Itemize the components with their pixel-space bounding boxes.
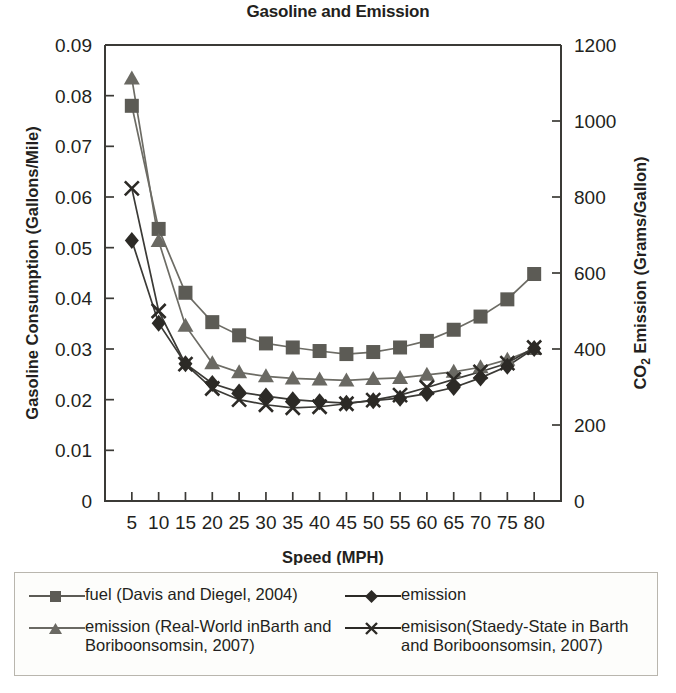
svg-text:600: 600 <box>574 263 606 284</box>
triangle-marker-icon <box>29 618 85 638</box>
svg-text:0.03: 0.03 <box>55 339 92 360</box>
svg-text:0.02: 0.02 <box>55 390 92 411</box>
legend-label-emission: emission <box>401 585 466 604</box>
svg-text:400: 400 <box>574 339 606 360</box>
series-line-1 <box>132 78 534 380</box>
data-series-1 <box>132 78 534 380</box>
square-data-marker <box>259 336 273 350</box>
svg-text:200: 200 <box>574 415 606 436</box>
square-marker-icon <box>29 586 85 606</box>
svg-text:0.01: 0.01 <box>55 440 92 461</box>
svg-text:45: 45 <box>336 512 357 533</box>
square-data-marker <box>205 315 219 329</box>
diamond-data-marker <box>393 390 407 407</box>
legend-label-fuel: fuel (Davis and Diegel, 2004) <box>85 585 298 604</box>
svg-text:0.04: 0.04 <box>55 288 92 309</box>
svg-text:0.06: 0.06 <box>55 187 92 208</box>
legend-item-emisison-steady-state: emisison(Staedy-State in Barth and Borib… <box>345 617 651 655</box>
square-data-marker <box>339 347 353 361</box>
svg-text:0: 0 <box>81 491 92 512</box>
square-data-marker <box>474 310 488 324</box>
triangle-data-marker <box>124 70 140 84</box>
plot-svg: 510152025303540455055606570758000.010.02… <box>0 0 676 565</box>
square-data-marker <box>500 292 514 306</box>
square-data-marker <box>125 99 139 113</box>
svg-text:0.09: 0.09 <box>55 35 92 56</box>
svg-text:80: 80 <box>524 512 545 533</box>
svg-text:0.05: 0.05 <box>55 238 92 259</box>
triangle-data-marker <box>231 364 247 378</box>
svg-text:1000: 1000 <box>574 111 616 132</box>
diamond-marker-icon <box>345 586 401 606</box>
y-axis-title: Gasoline Consumption (Gallons/Mile) <box>23 126 41 419</box>
svg-text:75: 75 <box>497 512 518 533</box>
legend-item-fuel: fuel (Davis and Diegel, 2004) <box>29 585 339 606</box>
plot-area: 510152025303540455055606570758000.010.02… <box>0 0 676 565</box>
chart-legend: fuel (Davis and Diegel, 2004) emission e… <box>14 572 658 676</box>
svg-text:800: 800 <box>574 187 606 208</box>
cross-data-marker <box>125 181 139 195</box>
svg-text:10: 10 <box>148 512 169 533</box>
svg-text:40: 40 <box>309 512 330 533</box>
svg-text:70: 70 <box>470 512 491 533</box>
svg-text:25: 25 <box>229 512 250 533</box>
svg-text:0.07: 0.07 <box>55 136 92 157</box>
svg-text:5: 5 <box>127 512 138 533</box>
svg-text:20: 20 <box>202 512 223 533</box>
triangle-data-marker <box>177 318 193 332</box>
svg-text:1200: 1200 <box>574 35 616 56</box>
svg-text:55: 55 <box>389 512 410 533</box>
square-data-marker <box>393 340 407 354</box>
triangle-data-marker <box>204 355 220 369</box>
y2-axis-title: CO2 Emission (Grams/Gallon) <box>631 156 653 389</box>
square-data-marker <box>286 340 300 354</box>
square-data-marker <box>313 344 327 358</box>
svg-text:0.08: 0.08 <box>55 86 92 107</box>
svg-text:35: 35 <box>282 512 303 533</box>
axis-labels-group: 510152025303540455055606570758000.010.02… <box>23 35 653 565</box>
square-data-marker <box>527 267 541 281</box>
data-markers-1 <box>124 70 542 386</box>
square-data-marker <box>447 323 461 337</box>
diamond-data-marker <box>259 388 273 405</box>
svg-text:50: 50 <box>363 512 384 533</box>
cross-marker-icon <box>345 618 401 638</box>
diamond-data-marker <box>125 232 139 249</box>
svg-text:15: 15 <box>175 512 196 533</box>
legend-label-emission-real-world: emission (Real-World inBarth and Boriboo… <box>85 617 339 655</box>
svg-text:60: 60 <box>416 512 437 533</box>
axes-group <box>105 45 561 501</box>
svg-text:65: 65 <box>443 512 464 533</box>
legend-label-emisison-steady-state: emisison(Staedy-State in Barth and Borib… <box>401 617 651 655</box>
square-data-marker <box>178 286 192 300</box>
legend-item-emission-real-world: emission (Real-World inBarth and Boriboo… <box>29 617 339 655</box>
diamond-data-marker <box>286 391 300 408</box>
svg-text:0: 0 <box>574 491 585 512</box>
square-data-marker <box>420 334 434 348</box>
legend-item-emission: emission <box>345 585 651 606</box>
square-data-marker <box>366 345 380 359</box>
x-axis-title: Speed (MPH) <box>282 548 384 565</box>
square-data-marker <box>232 328 246 342</box>
svg-text:30: 30 <box>255 512 276 533</box>
chart-figure: Gasoline and Emission 510152025303540455… <box>0 0 676 693</box>
series-group <box>124 70 542 414</box>
